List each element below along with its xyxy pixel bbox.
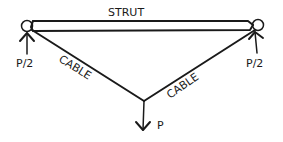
reaction-left-label: P/2 [16,57,33,70]
strut-top-edge [33,21,253,25]
strut-bottom-edge [31,21,253,31]
load-arrow-shaft [143,101,144,130]
cable-right [144,30,255,101]
strut-cable-diagram: STRUT CABLE CABLE P/2 P/2 P [0,0,283,142]
right-pin-joint [253,20,264,31]
reaction-right-label: P/2 [246,57,263,70]
load-arrow [136,101,150,130]
cable-right-label: CABLE [164,70,201,101]
left-reaction-arrow [20,33,34,54]
right-reaction-arrow [249,32,263,53]
strut-label: STRUT [108,6,144,19]
right-arrow-shaft [255,32,257,53]
load-label: P [157,119,164,132]
cable-left [32,30,144,101]
strut [31,21,253,31]
